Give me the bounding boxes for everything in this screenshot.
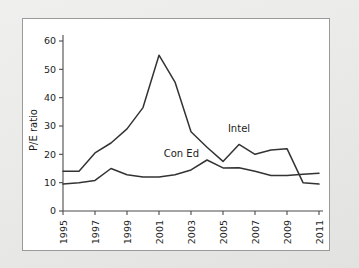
y-tick-label: 50: [44, 64, 56, 75]
x-axis-tick-labels: 199519971999200120032005200720092011: [58, 220, 325, 244]
series-line-intel: [63, 55, 319, 184]
x-axis: 199519971999200120032005200720092011: [58, 211, 325, 244]
x-tick-label: 2009: [282, 220, 293, 244]
series-line-con-ed: [63, 160, 319, 184]
y-axis-ticks: [59, 41, 63, 211]
y-tick-label: 10: [44, 177, 56, 188]
x-tick-label: 2003: [186, 220, 197, 244]
y-axis-title: P/E ratio: [28, 109, 39, 151]
y-axis-tick-labels: 0102030405060: [44, 35, 56, 216]
series-label-intel: Intel: [228, 123, 250, 134]
x-tick-label: 2007: [250, 220, 261, 244]
y-tick-label: 30: [44, 120, 56, 131]
chart-page: 0102030405060 19951997199920012003200520…: [0, 0, 359, 268]
y-tick-label: 40: [44, 92, 56, 103]
pe-ratio-line-chart: 0102030405060 19951997199920012003200520…: [23, 19, 329, 250]
x-tick-label: 1997: [90, 220, 101, 244]
y-tick-label: 20: [44, 149, 56, 160]
chart-panel: 0102030405060 19951997199920012003200520…: [22, 18, 330, 251]
series-inline-labels: IntelCon Ed: [164, 123, 250, 159]
x-tick-label: 2011: [314, 220, 325, 244]
x-tick-label: 1995: [58, 220, 69, 244]
x-tick-label: 2001: [154, 220, 165, 244]
y-tick-label: 60: [44, 35, 56, 46]
y-axis: 0102030405060: [44, 35, 63, 216]
data-series-group: [63, 55, 319, 184]
x-tick-label: 2005: [218, 220, 229, 244]
x-axis-ticks: [63, 211, 319, 215]
y-tick-label: 0: [50, 205, 56, 216]
series-label-con-ed: Con Ed: [164, 148, 199, 159]
x-tick-label: 1999: [122, 220, 133, 244]
